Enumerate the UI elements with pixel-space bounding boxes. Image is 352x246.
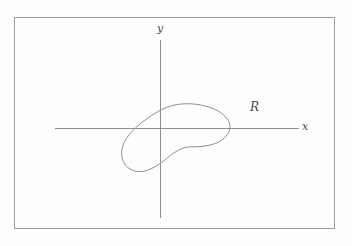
x-axis-label: x xyxy=(302,121,308,132)
region-label: R xyxy=(250,101,259,113)
figure-canvas: y x R xyxy=(0,0,352,246)
y-axis-label: y xyxy=(157,23,163,34)
region-r-curve xyxy=(122,104,230,172)
xy-plane-plot xyxy=(0,0,352,246)
